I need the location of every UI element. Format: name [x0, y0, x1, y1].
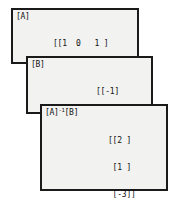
- result-matrix-row: [[2 ]: [108, 136, 136, 145]
- panel-matrix-a-label: [A]: [16, 12, 30, 21]
- panel-result-label: [A]-1[B]: [45, 108, 78, 117]
- result-matrix-row: [1 ]: [108, 163, 136, 172]
- matrix-b-row: [[-1]: [96, 87, 124, 96]
- panel-matrix-a-inverse-times-b[interactable]: [A]-1[B] [[2 ] [1 ] [-3]]: [40, 104, 168, 191]
- matrix-a-row: [[1 0 1 ]: [53, 39, 113, 48]
- result-matrix-values: [[2 ] [1 ] [-3]]: [108, 118, 136, 206]
- panel-matrix-b-label: [B]: [31, 60, 45, 69]
- result-matrix-row: [-3]]: [108, 190, 136, 199]
- calculator-screens-figure: [A] [[1 0 1 ] [2 -2 -1] [3 0 0 ]] [B] [[…: [0, 0, 176, 206]
